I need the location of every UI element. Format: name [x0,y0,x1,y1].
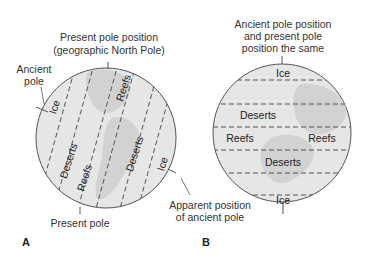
paleomagnetism-diagram: Ice Deserts Reefs Reefs Deserts Ice Pres… [0,0,367,261]
apparent-pole-tick [168,169,176,173]
zone-label: Ice [276,194,290,206]
present-pole-label: Present pole [51,217,110,229]
zone-label: Ice [276,67,290,79]
apparent-position-label-2: of ancient pole [176,211,244,223]
ancient-pole-label: Ancient [16,63,51,75]
panel-a-letter: A [22,236,30,248]
ancient-pole-position-label: Ancient pole position [235,18,332,30]
present-pole-position-label: Present pole position [60,31,158,43]
panel-b-letter: B [202,236,210,248]
zone-label: Reefs [308,132,335,144]
zone-label: Deserts [265,156,301,168]
ancient-pole-leader [41,87,44,104]
zone-label: Reefs [226,132,253,144]
zone-label: Deserts [240,109,276,121]
apparent-position-label: Apparent position [169,199,251,211]
ancient-pole-position-label-2: and present pole [244,30,322,42]
ancient-pole-position-label-3: position the same [242,42,324,54]
geographic-north-pole-label: (geographic North Pole) [53,44,164,56]
ancient-pole-label-2: pole [24,75,44,87]
apparent-pole-leader [181,178,190,195]
